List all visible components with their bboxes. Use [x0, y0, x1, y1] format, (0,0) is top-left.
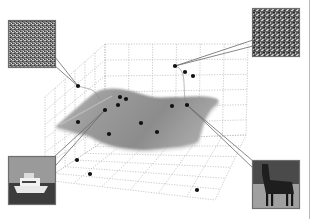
- surface-patch: [55, 89, 219, 151]
- grid-line: [215, 135, 246, 200]
- data-point: [76, 120, 80, 124]
- data-point: [124, 97, 128, 101]
- thumbnail-boat: photo of a motor yacht: [8, 156, 56, 205]
- thumbnail-noise-top-right: random noise image: [252, 8, 300, 57]
- grid-line: [45, 180, 215, 200]
- data-point: [139, 121, 143, 125]
- manifold-surface: [55, 89, 220, 154]
- noise-image: [8, 20, 56, 68]
- data-point: [75, 158, 79, 162]
- data-point: [107, 132, 111, 136]
- data-point: [191, 74, 195, 78]
- data-point-horse: [185, 103, 189, 107]
- data-point: [88, 172, 92, 176]
- horse-leg: [286, 194, 288, 206]
- data-point-noise-top-right: [173, 64, 177, 68]
- data-point: [183, 70, 187, 74]
- data-point: [170, 104, 174, 108]
- leader-line-noise-top-right: [175, 46, 253, 66]
- boat-windows: [22, 181, 36, 183]
- horse-leg: [266, 194, 268, 206]
- right-border-rule: [309, 0, 310, 219]
- data-point: [195, 188, 199, 192]
- thumbnail-noise-top-left: random noise image: [8, 20, 56, 68]
- embedding-diagram: random noise imagerandom noise imagephot…: [0, 0, 312, 219]
- data-point: [116, 103, 120, 107]
- leader-line-noise-top-left: [55, 57, 78, 86]
- noise-image: [252, 8, 300, 57]
- boat-hull: [14, 186, 48, 193]
- thumbnail-horse: photo of a horse: [252, 160, 300, 209]
- horse-leg: [291, 194, 293, 206]
- horse-leg: [271, 194, 273, 206]
- data-point-noise-top-left: [76, 84, 80, 88]
- data-point: [155, 130, 159, 134]
- data-point-boat: [103, 108, 107, 112]
- leader-line-noise-top-left: [55, 66, 78, 86]
- boat-bridge: [24, 173, 34, 178]
- data-point: [118, 95, 122, 99]
